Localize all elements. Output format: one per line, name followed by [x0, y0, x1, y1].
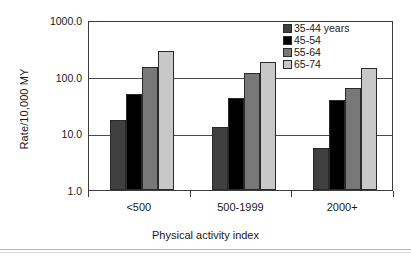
- legend: 35-44 years45-5455-6465-74: [283, 23, 387, 71]
- legend-swatch-icon: [283, 48, 292, 57]
- legend-item: 65-74: [283, 59, 387, 71]
- bar: [329, 100, 345, 190]
- bar: [126, 94, 142, 190]
- legend-swatch-icon: [283, 24, 292, 33]
- y-axis-tick-label: 10.0: [24, 129, 82, 139]
- bar: [228, 98, 244, 190]
- legend-label: 35-44 years: [294, 23, 349, 34]
- y-axis-tick-labels: 1000.0100.010.01.0: [24, 0, 82, 260]
- bar: [142, 67, 158, 190]
- x-axis-category-label: 500-1999: [190, 201, 292, 213]
- bar: [313, 148, 329, 190]
- bar-chart-figure: Rate/10,000 MY 1000.0100.010.01.0 <50050…: [0, 0, 411, 260]
- legend-item: 35-44 years: [283, 23, 387, 35]
- bar: [260, 62, 276, 190]
- x-axis-ticks: [88, 191, 393, 198]
- bar: [212, 127, 228, 190]
- legend-label: 65-74: [294, 59, 321, 70]
- bar: [361, 68, 377, 190]
- y-axis-tick-label: 1000.0: [24, 16, 82, 26]
- x-axis-tick: [291, 191, 292, 197]
- bottom-divider-secondary: [0, 252, 411, 253]
- x-axis-title: Physical activity index: [0, 229, 411, 241]
- x-axis-tick: [393, 191, 394, 197]
- y-axis-tick-label: 1.0: [24, 186, 82, 196]
- legend-label: 45-54: [294, 35, 321, 46]
- legend-item: 55-64: [283, 47, 387, 59]
- x-axis-category-label: <500: [88, 201, 190, 213]
- x-axis-tick: [190, 191, 191, 197]
- legend-item: 45-54: [283, 35, 387, 47]
- bar: [158, 51, 174, 190]
- bottom-divider: [0, 249, 411, 250]
- bar: [110, 120, 126, 190]
- legend-swatch-icon: [283, 60, 292, 69]
- y-axis-tick-label: 100.0: [24, 73, 82, 83]
- bar: [345, 88, 361, 190]
- legend-label: 55-64: [294, 47, 321, 58]
- legend-swatch-icon: [283, 36, 292, 45]
- x-axis-category-label: 2000+: [291, 201, 393, 213]
- bar: [244, 73, 260, 190]
- x-axis-tick: [88, 191, 89, 197]
